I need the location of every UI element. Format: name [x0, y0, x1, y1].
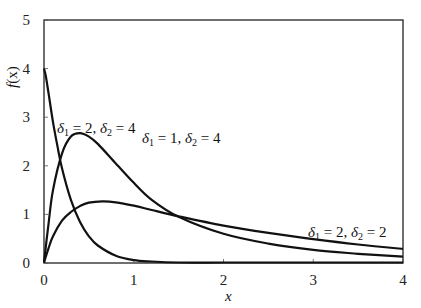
f-distribution-chart: 01234 012345 x f(x) δ1 = 2, δ2 = 4 δ1 = … — [0, 0, 421, 308]
x-tick-label: 1 — [130, 272, 138, 288]
x-tick-label: 4 — [399, 272, 407, 288]
x-tick-label: 0 — [40, 272, 48, 288]
y-tick-label: 2 — [23, 158, 31, 174]
x-axis-label: x — [224, 288, 232, 304]
y-tick-label: 4 — [23, 61, 31, 77]
y-tick-label: 1 — [23, 206, 31, 222]
y-tick-label: 3 — [23, 109, 31, 125]
annotation-d1-2-d2-4: δ1 = 2, δ2 = 4 — [57, 120, 136, 138]
annotation-d1-1-d2-4: δ1 = 1, δ2 = 4 — [142, 130, 221, 148]
y-axis-label: f(x) — [4, 66, 21, 88]
annotation-d1-2-d2-2: δ1 = 2, δ2 = 2 — [308, 224, 386, 242]
x-tick-label: 3 — [310, 272, 318, 288]
y-tick-label: 0 — [23, 255, 31, 271]
x-tick-label: 2 — [220, 272, 228, 288]
y-tick-label: 5 — [23, 12, 31, 28]
